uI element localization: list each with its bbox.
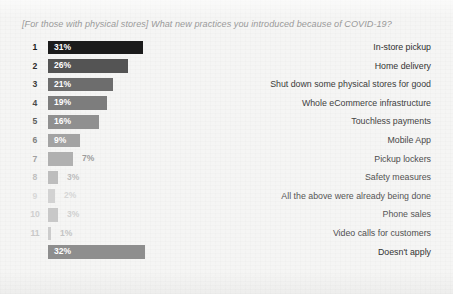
bar-track: 26% bbox=[48, 59, 128, 73]
rank-number: 6 bbox=[28, 131, 42, 150]
category-label: In-store pickup bbox=[373, 38, 431, 57]
bar-track bbox=[48, 227, 51, 241]
bar-track: 21% bbox=[48, 78, 113, 92]
category-label: Pickup lockers bbox=[374, 150, 431, 169]
bar-value-label: 32% bbox=[54, 245, 71, 259]
bar-value-label: 21% bbox=[54, 78, 71, 92]
bar bbox=[48, 152, 73, 166]
bar-value-label: 3% bbox=[67, 171, 79, 185]
chart-row: 226%Home delivery bbox=[0, 57, 453, 76]
rank-number: 8 bbox=[28, 168, 42, 187]
rank-number: 7 bbox=[28, 150, 42, 169]
chart-row: 32%Doesn't apply bbox=[0, 243, 453, 262]
rank-number: 11 bbox=[28, 224, 42, 243]
bar: 26% bbox=[48, 59, 128, 73]
rank-number: 3 bbox=[28, 75, 42, 94]
bar: 31% bbox=[48, 41, 143, 55]
bar-track bbox=[48, 171, 58, 185]
bar bbox=[48, 227, 51, 241]
chart-row: 77%Pickup lockers bbox=[0, 150, 453, 169]
category-label: Touchless payments bbox=[351, 112, 431, 131]
category-label: Home delivery bbox=[375, 57, 431, 76]
chart-row: 69%Mobile App bbox=[0, 131, 453, 150]
bar: 16% bbox=[48, 115, 99, 129]
bar-value-label: 1% bbox=[60, 227, 72, 241]
rank-number: 1 bbox=[28, 38, 42, 57]
bar-track bbox=[48, 208, 58, 222]
category-label: Doesn't apply bbox=[378, 243, 431, 262]
rank-number: 5 bbox=[28, 112, 42, 131]
bar-value-label: 9% bbox=[54, 134, 66, 148]
chart-row: 321%Shut down some physical stores for g… bbox=[0, 75, 453, 94]
chart-row: 92%All the above were already being done bbox=[0, 187, 453, 206]
bar-track: 19% bbox=[48, 96, 107, 110]
bar-value-label: 31% bbox=[54, 41, 71, 55]
chart-row: 419%Whole eCommerce infrastructure bbox=[0, 94, 453, 113]
rank-number: 2 bbox=[28, 57, 42, 76]
bar bbox=[48, 171, 58, 185]
chart-title: [For those with physical stores] What ne… bbox=[22, 19, 437, 29]
category-label: Phone sales bbox=[383, 205, 431, 224]
chart-row: 103%Phone sales bbox=[0, 205, 453, 224]
bar-value-label: 3% bbox=[67, 208, 79, 222]
bar-value-label: 19% bbox=[54, 96, 71, 110]
bar: 9% bbox=[48, 134, 80, 148]
chart-row: 516%Touchless payments bbox=[0, 112, 453, 131]
bar-track: 32% bbox=[48, 245, 145, 259]
rank-number: 4 bbox=[28, 94, 42, 113]
rank-number: 9 bbox=[28, 187, 42, 206]
chart-row: 83%Safety measures bbox=[0, 168, 453, 187]
bar-track bbox=[48, 152, 73, 166]
bar bbox=[48, 208, 58, 222]
chart-card: [For those with physical stores] What ne… bbox=[0, 0, 453, 294]
bar-track bbox=[48, 189, 55, 203]
bar-value-label: 2% bbox=[64, 189, 76, 203]
chart-row: 111%Video calls for customers bbox=[0, 224, 453, 243]
bar: 19% bbox=[48, 96, 107, 110]
bar-value-label: 7% bbox=[82, 152, 94, 166]
bar-track: 9% bbox=[48, 134, 80, 148]
category-label: All the above were already being done bbox=[281, 187, 431, 206]
bar-rows-container: 131%In-store pickup226%Home delivery321%… bbox=[0, 38, 453, 261]
bar-track: 16% bbox=[48, 115, 99, 129]
bar-value-label: 26% bbox=[54, 59, 71, 73]
rank-number bbox=[28, 243, 42, 262]
category-label: Whole eCommerce infrastructure bbox=[302, 94, 431, 113]
bar-value-label: 16% bbox=[54, 115, 71, 129]
bar bbox=[48, 189, 55, 203]
bar: 32% bbox=[48, 245, 145, 259]
bar: 21% bbox=[48, 78, 113, 92]
bar-track: 31% bbox=[48, 41, 143, 55]
chart-row: 131%In-store pickup bbox=[0, 38, 453, 57]
category-label: Shut down some physical stores for good bbox=[270, 75, 431, 94]
category-label: Video calls for customers bbox=[333, 224, 431, 243]
category-label: Mobile App bbox=[387, 131, 431, 150]
rank-number: 10 bbox=[28, 205, 42, 224]
category-label: Safety measures bbox=[365, 168, 431, 187]
